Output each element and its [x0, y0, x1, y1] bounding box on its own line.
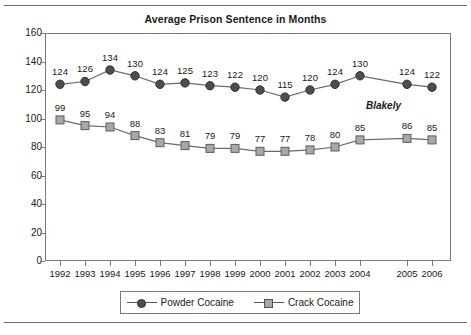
- data-point-label: 134: [102, 53, 118, 63]
- x-axis-tick-mark: [60, 261, 61, 266]
- y-axis-tick-mark: [40, 62, 45, 63]
- x-axis-tick-mark: [310, 261, 311, 266]
- data-point-label: 122: [227, 70, 243, 80]
- data-point-label: 115: [277, 80, 292, 90]
- x-axis-tick-label: 2005: [396, 268, 417, 279]
- legend-label-powder-cocaine: Powder Cocaine: [161, 297, 234, 308]
- data-point-label: 124: [399, 67, 415, 77]
- y-axis-tick-mark: [40, 261, 45, 262]
- x-axis-tick-mark: [285, 261, 286, 266]
- data-point-label: 130: [352, 59, 368, 69]
- x-axis-tick-label: 1996: [149, 268, 170, 279]
- x-axis-tick-mark: [335, 261, 336, 266]
- y-axis-tick-mark: [40, 176, 45, 177]
- chart-title: Average Prison Sentence in Months: [0, 13, 471, 25]
- x-axis-tick-label: 1999: [224, 268, 245, 279]
- data-point-label: 120: [252, 73, 268, 83]
- x-axis-tick-mark: [185, 261, 186, 266]
- chart-legend: Powder Cocaine Crack Cocaine: [120, 291, 360, 314]
- x-axis-tick-label: 1997: [174, 268, 195, 279]
- x-axis-tick-mark: [135, 261, 136, 266]
- data-point-label: 86: [402, 121, 413, 131]
- data-point-label: 85: [427, 123, 438, 133]
- powder-cocaine-marker-icon: [127, 297, 157, 309]
- x-axis-tick-mark: [210, 261, 211, 266]
- x-axis-tick-label: 2002: [299, 268, 320, 279]
- data-point-label: 130: [127, 59, 143, 69]
- x-axis-tick-mark: [110, 261, 111, 266]
- data-point-label: 83: [155, 126, 166, 136]
- x-axis-tick-label: 1995: [124, 268, 145, 279]
- x-axis-tick-mark: [432, 261, 433, 266]
- x-axis-tick-label: 1998: [199, 268, 220, 279]
- data-point-label: 126: [77, 64, 93, 74]
- y-axis-tick-label: 140: [8, 57, 42, 67]
- data-point-label: 124: [52, 67, 68, 77]
- y-axis-tick-mark: [40, 204, 45, 205]
- x-axis-tick-mark: [235, 261, 236, 266]
- data-point-label: 122: [424, 70, 440, 80]
- x-axis-tick-label: 2003: [324, 268, 345, 279]
- y-axis-tick-label: 160: [8, 28, 42, 38]
- data-point-label: 88: [130, 119, 141, 129]
- data-point-label: 125: [177, 66, 193, 76]
- x-axis-tick-label: 2004: [349, 268, 370, 279]
- y-axis-tick-label: 0: [8, 256, 42, 266]
- data-point-label: 95: [80, 109, 91, 119]
- x-axis-tick-mark: [85, 261, 86, 266]
- y-axis-tick-label: 40: [8, 199, 42, 209]
- data-point-label: 81: [180, 129, 191, 139]
- data-point-label: 123: [202, 69, 218, 79]
- x-axis-tick-label: 2000: [249, 268, 270, 279]
- data-point-label: 85: [355, 123, 366, 133]
- y-axis-tick-mark: [40, 33, 45, 34]
- blakely-annotation: Blakely: [366, 100, 401, 111]
- legend-label-crack-cocaine: Crack Cocaine: [288, 297, 354, 308]
- y-axis-tick-label: 120: [8, 85, 42, 95]
- x-axis-tick-label: 2001: [274, 268, 295, 279]
- x-axis-tick-mark: [160, 261, 161, 266]
- y-axis-tick-label: 100: [8, 114, 42, 124]
- data-point-label: 79: [205, 131, 216, 141]
- legend-item-powder-cocaine[interactable]: Powder Cocaine: [127, 297, 234, 309]
- y-axis-tick-mark: [40, 90, 45, 91]
- legend-item-crack-cocaine[interactable]: Crack Cocaine: [254, 297, 354, 309]
- data-point-label: 78: [305, 133, 316, 143]
- plot-area: [45, 33, 451, 261]
- data-point-label: 94: [105, 110, 116, 120]
- x-axis-tick-label: 2006: [421, 268, 442, 279]
- top-divider: [4, 5, 467, 6]
- y-axis-tick-mark: [40, 119, 45, 120]
- data-point-label: 80: [330, 130, 341, 140]
- x-axis-tick-mark: [360, 261, 361, 266]
- y-axis-tick-label: 60: [8, 171, 42, 181]
- y-axis-tick-mark: [40, 147, 45, 148]
- data-point-label: 124: [327, 67, 343, 77]
- x-axis-tick-label: 1992: [49, 268, 70, 279]
- data-point-label: 77: [280, 134, 291, 144]
- data-point-label: 77: [255, 134, 266, 144]
- crack-cocaine-marker-icon: [254, 297, 284, 309]
- y-axis-tick-label: 20: [8, 228, 42, 238]
- x-axis-tick-label: 1994: [99, 268, 120, 279]
- x-axis-tick-mark: [260, 261, 261, 266]
- data-point-label: 124: [152, 67, 168, 77]
- x-axis-tick-mark: [407, 261, 408, 266]
- data-point-label: 120: [302, 73, 318, 83]
- bottom-divider: [4, 322, 467, 323]
- data-point-label: 99: [55, 103, 66, 113]
- x-axis-tick-label: 1993: [74, 268, 95, 279]
- data-point-label: 79: [230, 131, 241, 141]
- y-axis-tick-label: 80: [8, 142, 42, 152]
- y-axis-tick-mark: [40, 233, 45, 234]
